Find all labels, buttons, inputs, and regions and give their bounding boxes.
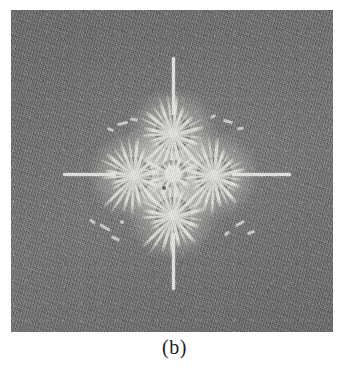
deposit-fleck bbox=[117, 121, 128, 127]
figure-image-panel bbox=[11, 10, 333, 332]
deposit-fleck bbox=[89, 218, 96, 225]
deposit-fleck bbox=[99, 223, 111, 232]
deposit-fleck bbox=[223, 119, 233, 125]
deposit-fleck bbox=[111, 235, 120, 241]
deposit-fleck bbox=[237, 126, 244, 130]
dendritic-deposit bbox=[11, 10, 333, 332]
deposit-fleck bbox=[107, 127, 115, 132]
figure-caption: (b) bbox=[0, 336, 349, 359]
aggregate-node-center bbox=[143, 144, 203, 204]
deposit-fleck bbox=[120, 220, 124, 224]
deposit-fleck bbox=[235, 220, 245, 228]
deposit-fleck bbox=[247, 230, 256, 236]
deposit-fleck bbox=[224, 230, 231, 236]
deposit-fleck bbox=[162, 186, 166, 190]
